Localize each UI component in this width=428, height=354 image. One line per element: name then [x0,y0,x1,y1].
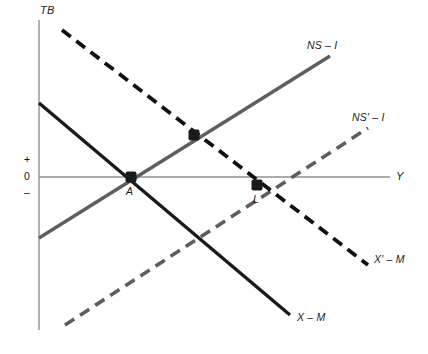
curve-label-ns-minus-i: NS – I [307,39,337,51]
point-marker-a [126,172,137,183]
point-marker-unlabeled [189,130,200,141]
tick-label-positive: + [24,153,30,165]
chart-canvas [0,0,428,354]
curve-x-prime-minus-m [62,30,368,265]
tick-label-zero: 0 [24,170,30,182]
curve-x-minus-m [39,103,290,315]
tb-y-diagram: TB Y + 0 – NS – I NS′ – I X′ – M X – M A… [0,0,428,354]
curve-label-ns-prime-minus-i: NS′ – I [352,111,385,123]
horizontal-axis-label: Y [396,170,404,182]
point-label-l: L [253,193,259,205]
curve-label-x-minus-m: X – M [297,311,325,323]
vertical-axis-label: TB [40,4,54,16]
curve-ns-prime-minus-i [65,128,368,325]
curve-label-x-prime-minus-m: X′ – M [374,253,405,265]
tick-label-negative: – [24,186,30,198]
point-marker-l [252,180,263,191]
curve-ns-minus-i [39,56,330,238]
point-label-a: A [126,185,133,197]
